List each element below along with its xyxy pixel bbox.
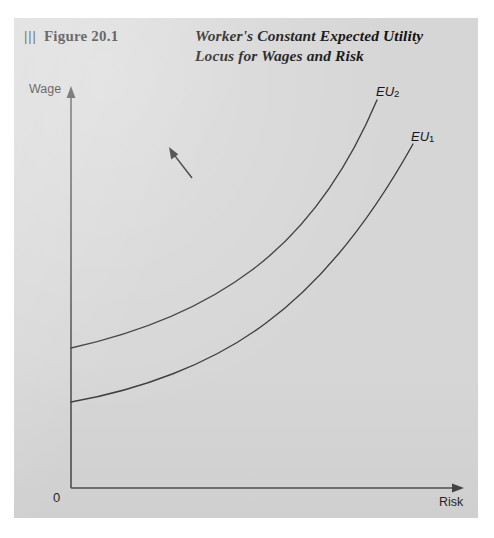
curve-label-eu2-subscript: 2	[394, 88, 399, 99]
x-axis-label: Risk	[439, 495, 463, 509]
curve-label-eu1: EU1	[411, 129, 434, 144]
chart-plot-area	[14, 18, 478, 518]
curve-label-eu2: EU2	[376, 84, 399, 99]
y-axis-arrowhead	[67, 86, 76, 98]
x-axis-arrowhead	[452, 484, 464, 493]
direction-of-increasing-utility-arrow	[169, 147, 192, 178]
curve-eu1	[71, 144, 413, 402]
y-axis	[67, 86, 76, 488]
origin-label: 0	[53, 490, 60, 505]
curve-eu2	[71, 100, 377, 348]
curve-label-eu1-text: EU	[411, 129, 429, 144]
figure-panel: ||| Figure 20.1 Worker's Constant Expect…	[14, 18, 478, 518]
x-axis	[71, 484, 464, 493]
y-axis-label: Wage	[29, 82, 61, 96]
curve-label-eu2-text: EU	[376, 84, 394, 99]
curve-label-eu1-subscript: 1	[429, 133, 434, 144]
